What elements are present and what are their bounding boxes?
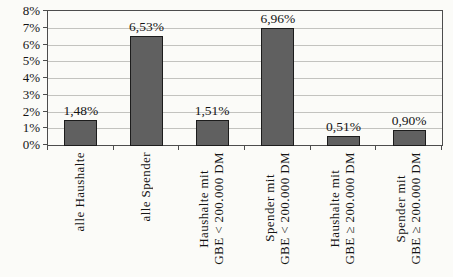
y-axis-tick-label: 0% (6, 137, 40, 152)
y-axis-tick-label: 6% (6, 37, 40, 52)
bar-5 (327, 136, 360, 146)
x-axis-category-label: Spender mit GBE ≥ 200.000 DM (375, 152, 441, 277)
gridline-4pct (48, 78, 442, 79)
y-axis-tick-mark (43, 127, 47, 128)
gridline-5pct (48, 61, 442, 62)
y-axis-tick-mark (43, 77, 47, 78)
y-axis-tick-mark (43, 60, 47, 61)
y-axis-tick-label: 1% (6, 120, 40, 135)
bar-value-label: 6,53% (107, 19, 187, 35)
scanned-bar-chart: 1,48%6,53%1,51%6,96%0,51%0,90% 0%1%2%3%4… (0, 0, 453, 277)
x-axis-category-text: Spender mit GBE ≥ 200.000 DM (393, 152, 423, 264)
y-axis-tick-label: 3% (6, 87, 40, 102)
x-axis-tick-mark (441, 146, 442, 150)
x-axis-tick-mark (178, 146, 179, 150)
x-axis-category-text: Haushalte mit GBE < 200.000 DM (196, 152, 226, 265)
x-axis-tick-mark (310, 146, 311, 150)
x-axis-category-label: Haushalte mit GBE < 200.000 DM (178, 152, 244, 277)
bar-value-label: 6,96% (238, 11, 318, 27)
y-axis-tick-mark (43, 27, 47, 28)
y-axis-tick-label: 5% (6, 53, 40, 68)
x-axis-category-label: alle Haushalte (47, 152, 113, 277)
x-axis-category-label: Spender mit GBE < 200.000 DM (244, 152, 310, 277)
y-axis-tick-label: 7% (6, 20, 40, 35)
y-axis-tick-mark (43, 44, 47, 45)
x-axis-tick-mark (47, 146, 48, 150)
x-axis-category-label: alle Spender (113, 152, 179, 277)
x-axis-category-text: alle Spender (138, 152, 153, 221)
bar-value-label: 1,51% (172, 103, 252, 119)
x-axis-tick-mark (244, 146, 245, 150)
y-axis-tick-mark (43, 94, 47, 95)
gridline-3pct (48, 95, 442, 96)
x-axis-category-text: Haushalte mit GBE ≥ 200.000 DM (327, 152, 357, 264)
plot-area: 1,48%6,53%1,51%6,96%0,51%0,90% (47, 10, 443, 146)
x-axis-category-text: Spender mit GBE < 200.000 DM (262, 152, 292, 265)
y-axis-tick-label: 2% (6, 104, 40, 119)
y-axis-tick-mark (43, 144, 47, 145)
bar-3 (196, 120, 229, 146)
x-axis-category-label: Haushalte mit GBE ≥ 200.000 DM (310, 152, 376, 277)
y-axis-tick-mark (43, 10, 47, 11)
bar-value-label: 0,90% (369, 113, 449, 129)
y-axis-tick-label: 4% (6, 70, 40, 85)
x-axis-tick-mark (375, 146, 376, 150)
y-axis-tick-mark (43, 111, 47, 112)
bar-value-label: 1,48% (41, 103, 121, 119)
bar-4 (261, 28, 294, 146)
gridline-6pct (48, 45, 442, 46)
bar-6 (393, 130, 426, 146)
x-axis-tick-mark (113, 146, 114, 150)
bar-2 (130, 36, 163, 146)
bar-chart: 1,48%6,53%1,51%6,96%0,51%0,90% 0%1%2%3%4… (0, 0, 453, 277)
y-axis-tick-label: 8% (6, 3, 40, 18)
x-axis-category-text: alle Haushalte (72, 152, 87, 232)
bar-1 (64, 120, 97, 146)
